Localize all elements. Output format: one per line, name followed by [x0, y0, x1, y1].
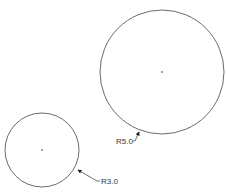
dimension-small: R3.0 [78, 170, 118, 186]
dimension-label-small: R3.0 [101, 177, 118, 186]
center-mark-large [161, 71, 163, 73]
small-circle [5, 113, 79, 187]
dimension-label-large: R5.0 [116, 137, 133, 146]
cad-drawing: R5.0 R3.0 [0, 0, 226, 194]
large-circle [100, 10, 224, 134]
center-mark-small [41, 149, 43, 151]
dimension-large: R5.0 [116, 132, 139, 146]
